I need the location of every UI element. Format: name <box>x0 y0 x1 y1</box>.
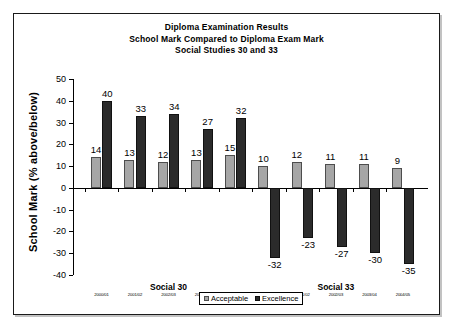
chart-legend: Acceptable Excellence <box>199 292 303 305</box>
chart-title: Diploma Examination Results <box>14 22 439 34</box>
legend-label-acceptable: Acceptable <box>211 294 248 303</box>
data-label: -35 <box>402 265 416 276</box>
bar-acceptable-2003-04 <box>359 164 369 188</box>
chart-subtitle: School Mark Compared to Diploma Exam Mar… <box>14 34 439 46</box>
data-label: 13 <box>124 147 135 158</box>
legend-item-acceptable: Acceptable <box>204 294 248 303</box>
legend-swatch-excellence <box>255 296 260 301</box>
y-axis-line <box>73 79 74 275</box>
y-tick-label: 50 <box>26 74 66 84</box>
group-label-social-30: Social 30 <box>150 282 187 292</box>
data-label: 10 <box>258 153 269 164</box>
y-tick-label: -30 <box>26 248 66 258</box>
y-tick-label: 30 <box>26 118 66 128</box>
bar-acceptable-2000-01 <box>91 157 101 187</box>
data-label: 12 <box>158 149 169 160</box>
x-tick <box>386 188 387 192</box>
x-axis-label: 2000/01 <box>94 292 108 297</box>
y-tick-label: -10 <box>26 205 66 215</box>
chart-title-block: Diploma Examination Results School Mark … <box>14 22 439 57</box>
data-label: 13 <box>191 147 202 158</box>
data-label: 14 <box>91 144 102 155</box>
y-tick <box>69 123 73 124</box>
bar-excellence-2000-01 <box>270 188 280 258</box>
bar-acceptable-2004-05 <box>225 155 235 188</box>
y-tick <box>69 253 73 254</box>
x-tick <box>252 188 253 192</box>
data-label: -30 <box>368 254 382 265</box>
legend-label-excellence: Excellence <box>262 294 298 303</box>
y-tick-label: 10 <box>26 161 66 171</box>
plot-area: 50403020100-10-20-30-40 1440133312341327… <box>73 79 428 275</box>
bar-excellence-2002-03 <box>169 114 179 188</box>
y-tick-label: 20 <box>26 139 66 149</box>
bar-acceptable-2002-03 <box>158 162 168 188</box>
bar-acceptable-2002-03 <box>325 164 335 188</box>
bar-acceptable-2003-04 <box>191 160 201 188</box>
chart-subtitle-2: Social Studies 30 and 33 <box>14 45 439 57</box>
data-label: 9 <box>395 155 400 166</box>
data-label: 15 <box>225 142 236 153</box>
bar-acceptable-2004-05 <box>392 168 402 188</box>
x-axis-label: 2004/05 <box>396 292 410 297</box>
x-tick <box>185 188 186 192</box>
bar-excellence-2004-05 <box>404 188 414 264</box>
y-tick-label: 40 <box>26 96 66 106</box>
chart-frame: Diploma Examination Results School Mark … <box>13 13 440 315</box>
data-label: 34 <box>169 101 180 112</box>
data-label: 27 <box>202 116 213 127</box>
bar-excellence-2002-03 <box>337 188 347 247</box>
legend-item-excellence: Excellence <box>255 294 298 303</box>
y-tick <box>69 144 73 145</box>
x-tick <box>219 188 220 192</box>
legend-swatch-acceptable <box>204 296 209 301</box>
y-tick <box>69 79 73 80</box>
plot-inner: 50403020100-10-20-30-40 1440133312341327… <box>73 79 428 275</box>
y-tick-label: -20 <box>26 226 66 236</box>
bar-excellence-2000-01 <box>102 101 112 188</box>
bar-acceptable-2001-02 <box>124 160 134 188</box>
data-label: 40 <box>102 88 113 99</box>
bar-excellence-2003-04 <box>203 129 213 188</box>
bar-acceptable-2000-01 <box>258 166 268 188</box>
x-axis-label: 2002/03 <box>329 292 343 297</box>
x-tick <box>152 188 153 192</box>
x-axis-label: 2003/04 <box>362 292 376 297</box>
group-label-social-33: Social 33 <box>317 282 354 292</box>
y-tick <box>69 101 73 102</box>
x-tick <box>118 188 119 192</box>
data-label: -27 <box>335 248 349 259</box>
bar-acceptable-2001-02 <box>292 162 302 188</box>
x-axis-label: 2001/02 <box>128 292 142 297</box>
bar-excellence-2003-04 <box>370 188 380 253</box>
bar-excellence-2001-02 <box>303 188 313 238</box>
y-tick-label: -40 <box>26 270 66 280</box>
y-tick <box>69 275 73 276</box>
x-axis-label: 2002/03 <box>161 292 175 297</box>
y-tick <box>69 210 73 211</box>
data-label: 11 <box>325 151 335 162</box>
data-label: -23 <box>301 239 315 250</box>
y-tick <box>69 166 73 167</box>
x-tick <box>85 188 86 192</box>
data-label: 12 <box>292 149 303 160</box>
y-tick <box>69 231 73 232</box>
data-label: 11 <box>359 151 369 162</box>
data-label: 33 <box>135 103 146 114</box>
data-label: 32 <box>236 105 247 116</box>
x-tick <box>353 188 354 192</box>
bar-excellence-2001-02 <box>136 116 146 188</box>
x-tick <box>319 188 320 192</box>
data-label: -32 <box>268 259 282 270</box>
x-tick <box>286 188 287 192</box>
y-tick-label: 0 <box>26 183 66 193</box>
bar-excellence-2004-05 <box>236 118 246 188</box>
